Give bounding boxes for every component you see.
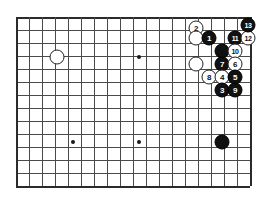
board-line-vertical xyxy=(133,17,134,186)
board-line-horizontal xyxy=(16,186,250,188)
stone-black-9[interactable]: 9 xyxy=(228,83,243,98)
star-point-lower-middle xyxy=(137,140,141,144)
board-line-vertical xyxy=(16,17,18,186)
star-point-lower-left xyxy=(71,140,75,144)
stone-move-number: 7 xyxy=(220,60,224,68)
stone-move-number: 11 xyxy=(232,35,238,42)
stone-move-number: 1 xyxy=(207,34,211,42)
stone-move-number: 6 xyxy=(233,60,237,68)
board-line-vertical xyxy=(94,17,95,186)
stone-move-number: 10 xyxy=(232,48,239,55)
stone-move-number: 5 xyxy=(233,73,237,81)
stone-move-number: 9 xyxy=(233,86,237,94)
stone-black-lower[interactable] xyxy=(215,135,230,150)
star-point-upper-middle xyxy=(137,55,141,59)
stone-move-number: 4 xyxy=(220,73,224,81)
stone-move-number: 13 xyxy=(245,22,252,29)
go-board-grid[interactable]: 21111213107684539 xyxy=(16,17,250,186)
stone-white-plain-c[interactable] xyxy=(189,57,204,72)
board-line-vertical xyxy=(68,17,69,186)
stone-move-number: 12 xyxy=(245,35,252,42)
board-line-vertical xyxy=(159,17,160,186)
board-line-vertical xyxy=(224,17,225,186)
board-line-vertical xyxy=(55,17,56,186)
board-line-vertical xyxy=(172,17,173,186)
stone-move-number: 8 xyxy=(207,73,211,81)
stone-white-12[interactable]: 12 xyxy=(241,31,256,46)
stone-move-number: 3 xyxy=(220,86,224,94)
board-line-vertical xyxy=(42,17,43,186)
stone-white-upper-left[interactable] xyxy=(50,50,65,65)
stone-black-1[interactable]: 1 xyxy=(202,31,217,46)
board-line-vertical xyxy=(107,17,108,186)
go-diagram: 21111213107684539 xyxy=(0,0,278,219)
board-line-vertical xyxy=(81,17,82,186)
stone-black-13[interactable]: 13 xyxy=(241,18,256,33)
board-line-vertical xyxy=(185,17,186,186)
board-line-vertical xyxy=(120,17,121,186)
board-line-vertical xyxy=(29,17,30,186)
board-line-vertical xyxy=(146,17,147,186)
